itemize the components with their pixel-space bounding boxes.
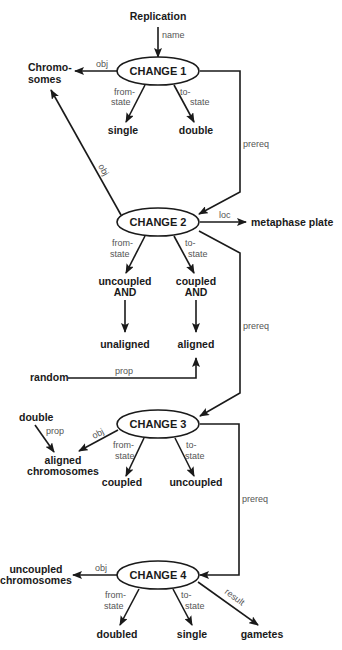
node-uncoupled-3: uncoupled	[169, 476, 222, 488]
label-state-4b: state	[185, 601, 205, 611]
node-uncoupled-and-line2: AND	[114, 286, 137, 298]
label-state-1b: state	[190, 97, 210, 107]
label-obj-1: obj	[96, 59, 108, 69]
node-double-3: double	[19, 411, 54, 423]
change-4-label: CHANGE 4	[130, 569, 188, 581]
label-state-3b: state	[185, 451, 205, 461]
node-random: random	[30, 371, 69, 383]
label-result: result	[223, 587, 247, 608]
label-from-1: from-	[114, 87, 135, 97]
label-obj-4: obj	[95, 563, 107, 573]
node-coupled-and-line2: AND	[185, 286, 208, 298]
label-to-1: to-	[180, 87, 191, 97]
change-1-label: CHANGE 1	[130, 65, 187, 77]
label-state-1a: state	[111, 97, 131, 107]
node-doubled-4: doubled	[97, 628, 138, 640]
node-gametes: gametes	[241, 628, 284, 640]
label-name: name	[162, 30, 185, 40]
label-from-4: from-	[105, 590, 126, 600]
label-to-2: to-	[185, 238, 196, 248]
node-aligned: aligned	[178, 338, 215, 350]
node-uncoupled-chromosomes-line2: chromosomes	[0, 574, 72, 586]
label-state-2b: state	[188, 249, 208, 259]
label-prereq-3: prereq	[242, 494, 268, 504]
node-metaphase-plate: metaphase plate	[251, 216, 333, 228]
change-2-label: CHANGE 2	[130, 216, 187, 228]
label-state-4a: state	[104, 601, 124, 611]
label-from-3: from-	[113, 440, 134, 450]
label-state-3a: state	[115, 451, 135, 461]
change-3-label: CHANGE 3	[130, 418, 187, 430]
node-aligned-chromosomes-line2: chromosomes	[27, 465, 99, 477]
node-single-1: single	[108, 124, 139, 136]
label-prop-2: prop	[46, 426, 64, 436]
node-chromosomes-line1: Chromo-	[28, 61, 72, 73]
label-from-2: from-	[112, 238, 133, 248]
label-loc: loc	[219, 210, 231, 220]
edge-prereq-3	[200, 424, 239, 575]
semantic-network-diagram: Replication name CHANGE 1 obj Chromo- so…	[0, 0, 342, 650]
label-to-4: to-	[181, 590, 192, 600]
node-double-1: double	[179, 124, 214, 136]
node-chromosomes-line2: somes	[28, 73, 61, 85]
label-to-3: to-	[186, 440, 197, 450]
label-prereq-2: prereq	[243, 321, 269, 331]
label-prop-1: prop	[115, 366, 133, 376]
node-single-4: single	[177, 628, 208, 640]
node-replication: Replication	[130, 10, 187, 22]
label-state-2a: state	[110, 249, 130, 259]
label-prereq-1: prereq	[243, 139, 269, 149]
node-unaligned: unaligned	[100, 338, 150, 350]
node-coupled-3: coupled	[102, 476, 142, 488]
edge-obj-2	[51, 90, 121, 215]
edge-prereq-1	[199, 71, 240, 214]
